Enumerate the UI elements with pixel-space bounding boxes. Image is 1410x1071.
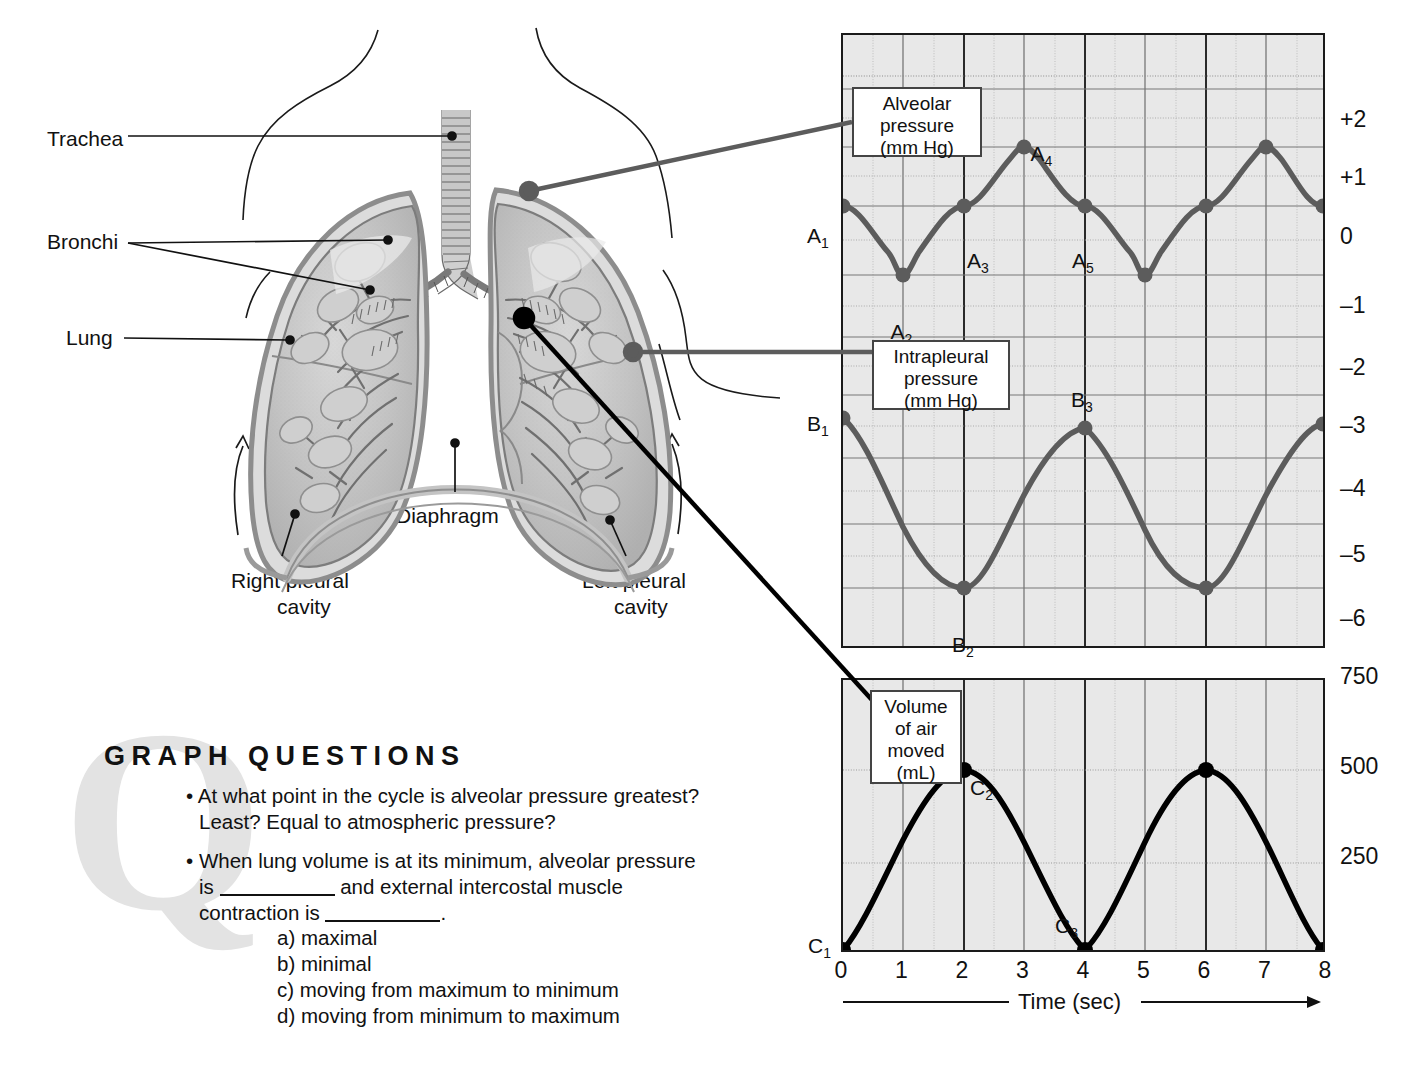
point-label-B1: B1 <box>807 412 829 439</box>
point-label-A1: A1 <box>807 224 829 251</box>
volume-callout: Volume of air moved (mL) <box>870 690 962 784</box>
point-label-A5: A5 <box>1072 249 1094 276</box>
volume-callout-line-3: moved <box>880 740 952 762</box>
point-label-A3: A3 <box>967 249 989 276</box>
alveolar-callout-line-1: Alveolar <box>862 93 972 115</box>
intrapleural-callout-line-2: pressure <box>882 368 1000 390</box>
intrapleural-pressure-callout: Intrapleural pressure (mm Hg) <box>872 340 1010 410</box>
graph-connector-lines <box>0 0 1410 1071</box>
alveolar-callout-line-2: pressure <box>862 115 972 137</box>
point-label-C3: C3 <box>1055 914 1078 941</box>
volume-callout-line-1: Volume <box>880 696 952 718</box>
point-label-B2: B2 <box>952 633 974 660</box>
intrapleural-callout-line-1: Intrapleural <box>882 346 1000 368</box>
point-label-C1: C1 <box>808 934 831 961</box>
alveolar-pressure-callout: Alveolar pressure (mm Hg) <box>852 87 982 157</box>
intrapleural-callout-line-3: (mm Hg) <box>882 390 1000 412</box>
time-axis-label: Time (sec) <box>1018 989 1121 1014</box>
point-label-B3: B3 <box>1071 388 1093 415</box>
point-label-A4: A4 <box>1031 142 1053 169</box>
alveolar-callout-line-3: (mm Hg) <box>862 137 972 159</box>
point-label-C2: C2 <box>970 776 993 803</box>
volume-callout-line-4: (mL) <box>880 762 952 784</box>
volume-callout-line-2: of air <box>880 718 952 740</box>
